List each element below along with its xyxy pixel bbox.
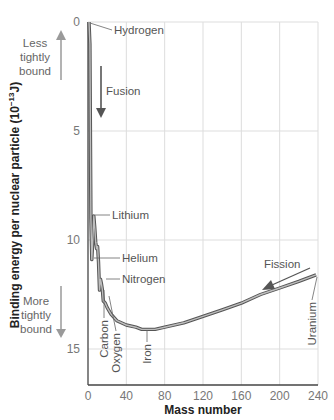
- y-tick: 5: [73, 124, 80, 138]
- y-tick: 0: [73, 15, 80, 29]
- svg-text:bound: bound: [20, 323, 52, 335]
- x-tick-labels: 04080120160200240: [85, 389, 329, 403]
- up-arrowhead: [56, 30, 66, 40]
- label-nitrogen: Nitrogen: [122, 273, 165, 285]
- less-tightly-bound-label: Lesstightlybound: [19, 30, 66, 80]
- x-tick: 40: [120, 389, 134, 403]
- down-arrowhead: [56, 329, 66, 338]
- svg-text:bound: bound: [19, 65, 51, 77]
- more-tightly-bound-label: Moretightlybound: [20, 286, 66, 338]
- label-iron: Iron: [141, 344, 153, 364]
- x-tick: 200: [270, 389, 290, 403]
- x-tick: 240: [308, 389, 328, 403]
- y-tick: 10: [67, 233, 81, 247]
- x-tick: 0: [85, 389, 92, 403]
- binding-energy-chart: 04080120160200240 051015 HydrogenLithium…: [0, 0, 334, 420]
- svg-text:tightly: tightly: [21, 309, 51, 321]
- y-axis-title: Binding energy per nuclear particle (10−…: [7, 82, 22, 328]
- label-uranium: Uranium: [306, 302, 318, 345]
- svg-text:Less: Less: [23, 37, 48, 49]
- label-carbon: Carbon: [98, 320, 110, 358]
- svg-text:tightly: tightly: [20, 51, 50, 63]
- fusion-arrowhead: [96, 108, 106, 118]
- label-fusion: Fusion: [106, 85, 141, 97]
- label-helium: Helium: [122, 252, 158, 264]
- x-axis-title: Mass number: [164, 403, 242, 417]
- grid: [88, 22, 318, 385]
- label-fission: Fission: [264, 258, 300, 270]
- label-oxygen: Oxygen: [110, 333, 122, 373]
- label-lithium: Lithium: [112, 209, 149, 221]
- x-tick: 160: [231, 389, 251, 403]
- label-hydrogen: Hydrogen: [114, 24, 164, 36]
- fission-arrowhead: [262, 280, 275, 290]
- element-annotations: HydrogenLithiumHeliumNitrogenCarbonOxyge…: [90, 23, 318, 373]
- y-tick: 15: [67, 342, 81, 356]
- x-tick: 120: [193, 389, 213, 403]
- svg-text:More: More: [23, 295, 49, 307]
- y-tick-labels: 051015: [67, 15, 81, 356]
- x-tick: 80: [158, 389, 172, 403]
